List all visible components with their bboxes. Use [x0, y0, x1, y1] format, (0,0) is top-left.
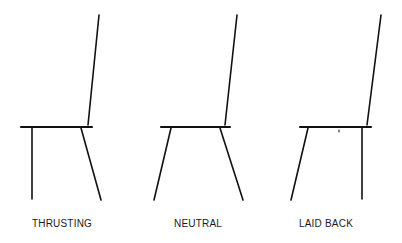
label-neutral: NEUTRAL [174, 218, 222, 229]
label-thrusting: THRUSTING [32, 218, 92, 229]
chair-laid-back [291, 15, 381, 200]
rear-leg-line [220, 128, 243, 200]
backrest-line [367, 15, 381, 125]
backrest-line [88, 15, 99, 125]
front-leg-line [291, 128, 308, 200]
label-laid-back: LAID BACK [299, 218, 353, 229]
chair-neutral [154, 15, 243, 200]
chair-thrusting [21, 15, 101, 200]
backrest-line [225, 15, 237, 125]
rear-leg-line [81, 128, 101, 200]
chair-diagram [0, 0, 402, 243]
front-leg-line [154, 128, 171, 200]
